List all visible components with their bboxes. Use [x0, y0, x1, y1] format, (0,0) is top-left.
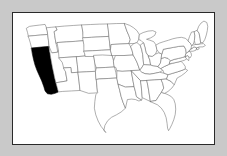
state-oregon	[28, 34, 49, 48]
state-north-dakota	[82, 24, 109, 38]
us-map-svg	[13, 13, 214, 144]
state-kansas	[94, 55, 115, 68]
state-colorado	[77, 55, 96, 72]
state-oklahoma	[96, 67, 117, 79]
map-figure	[12, 12, 215, 145]
states-layer	[26, 21, 207, 133]
state-iowa	[110, 44, 133, 56]
state-wyoming	[57, 41, 85, 58]
state-new-mexico	[78, 71, 97, 93]
state-washington	[26, 24, 47, 36]
state-south-dakota	[83, 36, 111, 51]
